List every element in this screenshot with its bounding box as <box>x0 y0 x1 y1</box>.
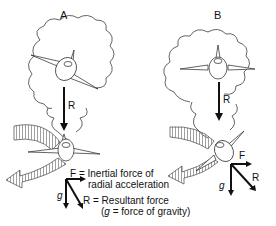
diagram-canvas <box>0 0 276 226</box>
g-label-b: g <box>219 180 225 191</box>
legend-r-line2: (g = force of gravity) <box>101 206 190 217</box>
r-force-label-b: R <box>252 172 259 183</box>
legend-r-line1: R = Resultant force <box>83 195 169 206</box>
turn-arrow-b <box>168 127 218 184</box>
r-label-b: R <box>223 94 230 105</box>
panel-b-label: B <box>214 10 221 21</box>
plane-b-top <box>180 45 255 79</box>
f-label-b: F <box>239 150 245 161</box>
panel-b <box>164 29 256 196</box>
thought-cloud-b <box>164 29 250 138</box>
r-label-a: R <box>68 100 75 111</box>
legend-f-line2: radial acceleration <box>88 179 169 190</box>
legend-r-rest: = force of gravity) <box>110 206 190 217</box>
turn-arrow-a <box>6 125 66 188</box>
legend-f-line1: F = Inertial force of <box>70 168 154 179</box>
panel-a-label: A <box>60 10 67 21</box>
plane-a-top <box>31 50 98 89</box>
g-label-a: g <box>57 190 63 201</box>
